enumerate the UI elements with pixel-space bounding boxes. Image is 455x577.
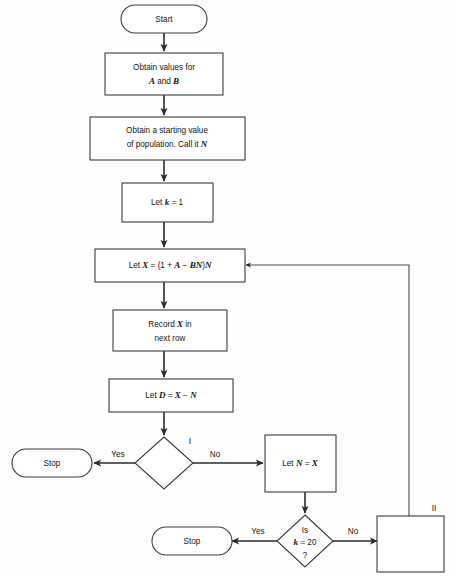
record-x-line1: Record X in — [148, 319, 192, 329]
record-x-shape — [113, 310, 227, 351]
var-a: A — [173, 260, 180, 270]
stop-bottom-label: Stop — [184, 537, 201, 546]
node-obtain-values: Obtain values for A and B — [105, 53, 223, 95]
node-box-ii: II — [377, 503, 444, 572]
stop-left-label: Stop — [44, 459, 61, 468]
record-x-line2: next row — [155, 334, 186, 343]
let-d-label: Let D = X − N — [145, 390, 197, 400]
flowchart-svg: Start Obtain values for A and B Obtain a… — [0, 0, 455, 577]
box-ii-shape — [377, 516, 444, 572]
obtain-population-line2: of population. Call it N — [127, 139, 208, 149]
node-let-x: Let X = (1 + A − BN)N — [95, 249, 245, 282]
node-stop-left: Stop — [12, 449, 92, 477]
node-let-k: Let k = 1 — [122, 183, 213, 222]
start-label: Start — [155, 15, 173, 24]
marker-one-label: I — [189, 436, 191, 446]
var-bn: BN — [189, 260, 203, 270]
node-let-d: Let D = X − N — [109, 379, 233, 412]
obtain-values-line1: Obtain values for — [133, 63, 195, 72]
node-obtain-population: Obtain a starting value of population. C… — [90, 117, 245, 160]
decision-k-line3: ? — [303, 551, 308, 560]
node-start: Start — [121, 5, 207, 33]
var-x: X — [311, 458, 319, 468]
edge-label-yes-lower: Yes — [251, 527, 264, 536]
decision-k-line2: k = 20 — [294, 537, 317, 547]
node-let-n: Let N = X — [265, 435, 336, 492]
obtain-population-shape — [90, 117, 245, 160]
obtain-values-shape — [105, 53, 223, 95]
edge-label-yes-upper: Yes — [111, 450, 124, 459]
marker-two-label: II — [432, 503, 437, 513]
node-decision-i: I — [135, 436, 193, 489]
let-x-label: Let X = (1 + A − BN)N — [129, 260, 212, 270]
node-decision-k: Is k = 20 ? — [277, 515, 333, 567]
node-record-x: Record X in next row — [113, 310, 227, 351]
let-k-label: Let k = 1 — [151, 197, 184, 207]
obtain-population-line1: Obtain a starting value — [126, 126, 208, 135]
var-n: N — [189, 390, 197, 400]
var-n: N — [204, 260, 212, 270]
var-b: B — [172, 76, 179, 86]
edge-label-no-lower: No — [348, 527, 359, 536]
let-n-label: Let N = X — [282, 458, 319, 468]
node-stop-bottom: Stop — [152, 527, 232, 555]
decision-k-line1: Is — [302, 526, 308, 535]
decision-i-shape — [135, 437, 193, 489]
var-n: N — [200, 139, 208, 149]
var-a: A — [148, 76, 155, 86]
edge-label-no-upper: No — [210, 450, 221, 459]
obtain-values-line2: A and B — [148, 76, 179, 86]
flowchart-canvas: Start Obtain values for A and B Obtain a… — [0, 0, 455, 577]
